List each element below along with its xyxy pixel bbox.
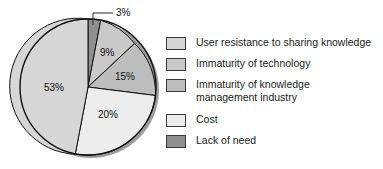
legend-swatch-icon-cost [166, 114, 186, 127]
legend-swatch-icon-user-resistance [166, 37, 186, 50]
pie-chart-figure: 9% 15% 20% 53% 3% User resistance to sha… [0, 0, 383, 169]
pie-data-label-immaturity-km-industry: 15% [115, 72, 135, 82]
legend-item-user-resistance[interactable]: User resistance to sharing knowledge [166, 36, 381, 50]
legend-swatch-icon-immaturity-km-industry [166, 79, 186, 92]
legend-label-user-resistance: User resistance to sharing knowledge [196, 36, 371, 49]
legend-label-lack-of-need: Lack of need [196, 134, 256, 147]
legend-item-immaturity-technology[interactable]: Immaturity of technology [166, 57, 381, 71]
pie-data-label-user-resistance: 53% [44, 83, 64, 93]
chart-legend: User resistance to sharing knowledge Imm… [166, 36, 381, 155]
legend-item-immaturity-km-industry[interactable]: Immaturity of knowledge management indus… [166, 78, 381, 103]
pie-slice-cost [75, 87, 155, 155]
pie-chart-svg [0, 0, 168, 169]
pie-chart-plot-area: 9% 15% 20% 53% 3% [0, 0, 168, 169]
legend-label-immaturity-km-industry: Immaturity of knowledge management indus… [196, 78, 310, 103]
pie-data-label-cost: 20% [98, 110, 118, 120]
legend-label-cost: Cost [196, 113, 218, 126]
pie-data-label-immaturity-technology: 9% [100, 48, 114, 58]
legend-swatch-icon-immaturity-technology [166, 58, 186, 71]
legend-label-immaturity-technology: Immaturity of technology [196, 57, 310, 70]
pie-data-label-lack-of-need: 3% [116, 8, 130, 18]
legend-swatch-icon-lack-of-need [166, 135, 186, 148]
legend-item-cost[interactable]: Cost [166, 113, 381, 127]
legend-item-lack-of-need[interactable]: Lack of need [166, 134, 381, 148]
